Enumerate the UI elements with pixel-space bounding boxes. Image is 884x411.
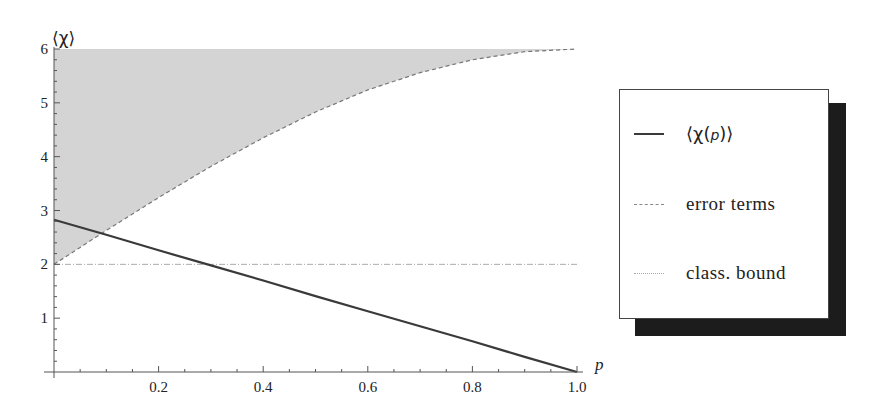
- solid-line-swatch-icon: [634, 133, 664, 135]
- y-tick-label: 5: [41, 95, 49, 111]
- x-tick-label: 0.8: [463, 379, 482, 395]
- legend-label-chi: ⟨χ(p)⟩: [686, 123, 733, 144]
- dashed-line-swatch-icon: [634, 204, 664, 205]
- legend-label-error-terms: error terms: [686, 193, 775, 215]
- plot-area: [54, 49, 577, 372]
- y-axis-title: ⟨χ⟩: [52, 28, 75, 48]
- legend-label-class-bound: class. bound: [686, 262, 786, 284]
- dotted-line-swatch-icon: [634, 273, 664, 274]
- legend: ⟨χ(p)⟩ error terms class. bound: [619, 89, 829, 319]
- y-tick-label: 4: [41, 149, 49, 165]
- y-tick-label: 1: [41, 310, 49, 326]
- x-tick-label: 1.0: [568, 379, 587, 395]
- chi-line: [54, 220, 577, 372]
- x-tick-label: 0.2: [149, 379, 168, 395]
- y-tick-label: 6: [41, 41, 49, 57]
- shaded-region: [54, 49, 577, 264]
- legend-item-chi: ⟨χ(p)⟩: [634, 123, 733, 144]
- x-axis-title: p: [594, 355, 604, 374]
- y-tick-label: 3: [41, 203, 49, 219]
- x-tick-label: 0.6: [358, 379, 377, 395]
- x-tick-label: 0.4: [254, 379, 273, 395]
- y-tick-label: 2: [41, 256, 49, 272]
- legend-item-error-terms: error terms: [634, 193, 775, 215]
- legend-item-class-bound: class. bound: [634, 262, 786, 284]
